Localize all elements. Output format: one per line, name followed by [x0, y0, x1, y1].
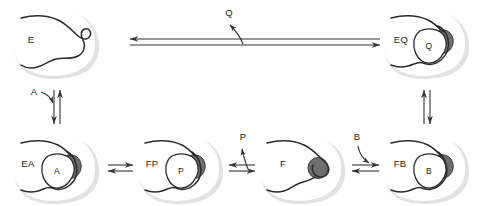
state-E: E	[12, 9, 99, 79]
state-FP: FP P	[136, 134, 223, 204]
species-label-P: P	[240, 131, 247, 142]
species-curve-Q	[230, 25, 243, 44]
ligand-label-Q: Q	[426, 41, 433, 51]
reaction-arrow-ea-to-fp	[108, 165, 133, 171]
state-label-FP: FP	[146, 158, 159, 169]
enzyme-mechanism-diagram: E EQ Q EA A FP P F	[0, 0, 489, 206]
state-label-E: E	[28, 34, 35, 45]
reaction-arrow-eq-to-e: Q	[130, 7, 380, 45]
reaction-arrow-f-to-fb: B	[352, 131, 379, 171]
state-label-FB: FB	[394, 158, 407, 169]
enzyme-body-E	[12, 9, 95, 76]
state-label-EA: EA	[21, 158, 35, 169]
reaction-arrow-e-to-ea: A	[31, 86, 60, 124]
state-label-EQ: EQ	[394, 34, 408, 45]
species-curve-P	[242, 149, 248, 169]
ligand-label-B: B	[426, 166, 432, 176]
state-EQ: EQ Q	[382, 9, 469, 79]
ligand-label-P: P	[178, 166, 184, 176]
species-label-Q: Q	[225, 7, 233, 18]
state-F: F	[258, 134, 345, 204]
species-curve-A	[41, 92, 53, 103]
state-label-F: F	[280, 158, 286, 169]
species-label-B: B	[354, 131, 361, 142]
state-FB: FB B	[382, 134, 469, 204]
reaction-arrow-fp-to-f: P	[229, 131, 255, 171]
state-EA: EA A	[12, 134, 99, 204]
species-label-A: A	[31, 86, 38, 97]
reaction-arrow-fb-to-eq	[424, 90, 430, 124]
species-curve-B	[358, 146, 369, 163]
ligand-label-A: A	[54, 166, 60, 176]
